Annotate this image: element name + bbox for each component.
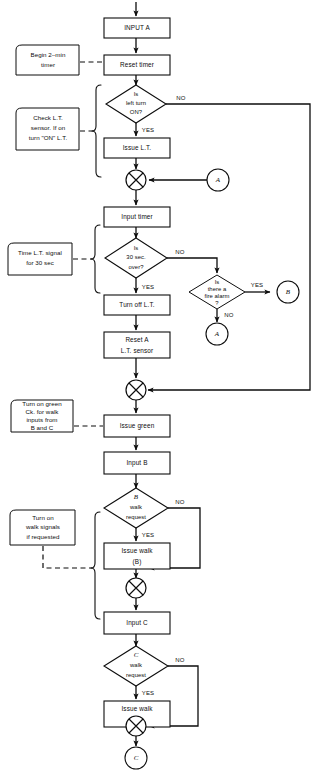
process-input-timer-label: Input timer: [121, 213, 153, 221]
connector-a-right-label: A: [215, 176, 221, 184]
annotation-turn-on-green-line1: Turn on green: [22, 400, 62, 407]
decision-fire-alarm-line1: Is: [215, 279, 220, 285]
decision-30-sec-line3: over?: [129, 264, 145, 270]
branch-b-walk-yes-label: YES: [142, 532, 155, 538]
brace-time-lt-group: [91, 225, 100, 293]
process-turn-off-lt-label: Turn off L.T.: [119, 301, 154, 308]
decision-b-walk-line2: walk: [129, 504, 142, 510]
annotation-time-lt-line2: for 30 sec: [26, 259, 54, 266]
process-issue-green-label: Issue green: [120, 422, 155, 430]
process-reset-a-line1: Reset A: [125, 336, 149, 343]
annotation-time-lt-line1: Time L.T. signal: [18, 249, 62, 256]
process-issue-walk-b-line2: (B): [133, 558, 142, 566]
annotation-turn-on-green-line2: Ck. for walk: [26, 408, 60, 415]
decision-fire-alarm-line3: fire alarm: [204, 293, 229, 299]
connector-b-right-label: B: [286, 288, 291, 296]
decision-b-walk-line1: B: [134, 493, 139, 501]
branch-fire-alarm-yes-label: YES: [251, 282, 264, 288]
annotation-turn-on-green-line4: B and C: [31, 424, 54, 431]
decision-30-sec-line1: Is: [134, 245, 139, 251]
branch-fire-alarm-no-label: NO: [224, 312, 234, 318]
process-reset-a-line2: L.T. sensor: [121, 347, 154, 354]
annotation-turn-on-walk-line1: Turn on: [32, 514, 54, 521]
branch-c-walk-yes-label: YES: [142, 690, 155, 696]
annotation-begin-timer-line2: timer: [41, 61, 55, 68]
branch-30-sec-no-label: NO: [175, 249, 185, 255]
branch-30-sec-no-path: [167, 258, 217, 273]
decision-left-turn-line1: Is: [134, 91, 139, 97]
decision-fire-alarm-line2: there a: [208, 286, 227, 292]
connector-c-terminal-label: C: [134, 754, 139, 762]
branch-left-turn-no-path: [148, 104, 310, 390]
decision-c-walk-line2: walk: [129, 662, 142, 668]
process-input-a-label: INPUT A: [124, 24, 150, 31]
annotation-turn-on-walk-connector: [43, 546, 92, 568]
branch-b-walk-no-label: NO: [175, 499, 185, 505]
flowchart-canvas: INPUT A Reset timer Begin 2–min timer Is…: [0, 0, 316, 772]
branch-left-turn-yes-label: YES: [142, 127, 155, 133]
brace-walk-group: [91, 512, 100, 619]
branch-30-sec-yes-label: YES: [142, 284, 155, 290]
decision-c-walk-line1: C: [134, 651, 139, 659]
process-input-c-label: Input C: [126, 619, 148, 627]
annotation-turn-on-walk-line2: walk signals: [25, 523, 60, 530]
decision-30-sec-line2: 30 sec.: [126, 254, 146, 260]
decision-left-turn-line2: left turn: [126, 100, 146, 106]
annotation-turn-on-green-line3: inputs from: [26, 416, 57, 423]
process-input-b-label: Input B: [126, 459, 147, 467]
process-reset-timer-label: Reset timer: [120, 61, 155, 68]
annotation-check-lt-line2: sensor. If on: [31, 124, 66, 131]
flowchart-root: INPUT A Reset timer Begin 2–min timer Is…: [0, 0, 316, 772]
branch-c-walk-no-label: NO: [175, 657, 185, 663]
process-issue-walk-b-line1: Issue walk: [121, 547, 153, 554]
decision-b-walk-line3: request: [126, 514, 146, 520]
annotation-check-lt-line1: Check L.T.: [33, 114, 63, 121]
decision-left-turn-line3: ON?: [130, 109, 143, 115]
decision-c-walk-line3: request: [126, 672, 146, 678]
process-issue-walk-c-line1: Issue walk: [121, 705, 153, 712]
brace-left-turn-group: [92, 85, 101, 177]
annotation-turn-on-walk-line3: if requested: [27, 533, 60, 540]
annotation-begin-timer-line1: Begin 2–min: [31, 51, 66, 58]
process-issue-lt-label: Issue L.T.: [123, 144, 152, 151]
branch-left-turn-no-label: NO: [176, 95, 186, 101]
connector-a-below-fire-label: A: [214, 330, 220, 338]
annotation-check-lt-line3: turn "ON" L.T.: [29, 134, 68, 141]
